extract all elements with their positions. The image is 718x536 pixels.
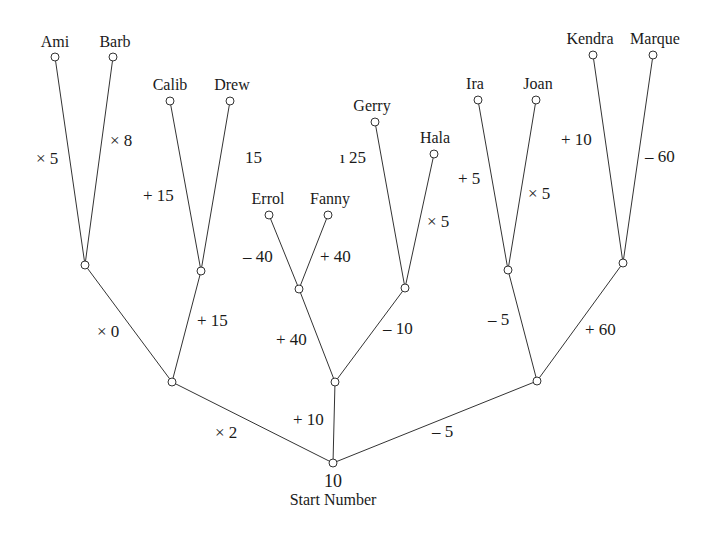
tree-node <box>324 211 332 219</box>
edge-operation-label: – 60 <box>645 148 675 165</box>
start-number-caption: Start Number <box>290 492 377 508</box>
tree-edge <box>478 100 508 270</box>
leaf-name-label: Ira <box>466 76 484 92</box>
tree-node <box>401 284 409 292</box>
edge-operation-label: + 40 <box>320 248 351 265</box>
tree-node <box>371 118 379 126</box>
edge-operation-label: × 2 <box>215 424 237 441</box>
leaf-name-label: Marque <box>630 31 680 47</box>
tree-node <box>533 377 541 385</box>
tree-edge <box>201 101 230 271</box>
tree-edge <box>333 382 335 463</box>
tree-node <box>331 378 339 386</box>
edge-operation-label: × 5 <box>427 213 449 230</box>
leaf-name-label: Hala <box>420 130 450 146</box>
edge-operation-label: ı 25 <box>340 149 366 166</box>
number-tree-diagram: × 2+ 10– 5× 0+ 15+ 40– 10– 5+ 60× 5× 8+ … <box>0 0 718 536</box>
leaf-name-label: Fanny <box>310 191 350 207</box>
edge-operation-label: – 5 <box>488 311 509 328</box>
tree-edge <box>85 57 113 265</box>
tree-node <box>532 96 540 104</box>
tree-node <box>589 51 597 59</box>
edge-operation-label: – 40 <box>243 248 273 265</box>
edge-operation-label: × 5 <box>528 185 550 202</box>
leaf-name-label: Drew <box>214 77 250 93</box>
edge-operation-label: 15 <box>245 149 262 166</box>
leaf-name-label: Calib <box>153 77 188 93</box>
leaf-name-label: Joan <box>523 76 552 92</box>
edge-operation-label: × 8 <box>110 132 132 149</box>
tree-node <box>265 211 273 219</box>
edge-operation-label: + 5 <box>458 170 480 187</box>
tree-node <box>295 285 303 293</box>
edge-operation-label: + 15 <box>197 312 228 329</box>
edge-operation-label: × 0 <box>97 323 119 340</box>
tree-node <box>619 259 627 267</box>
leaf-name-label: Kendra <box>566 31 613 47</box>
tree-node <box>168 378 176 386</box>
tree-node <box>474 96 482 104</box>
tree-node <box>197 267 205 275</box>
start-number-value: 10 <box>324 472 342 490</box>
edge-operation-label: + 10 <box>293 411 324 428</box>
edge-operation-label: × 5 <box>36 150 58 167</box>
tree-node <box>504 266 512 274</box>
tree-node <box>649 51 657 59</box>
edge-operation-label: + 40 <box>276 331 307 348</box>
tree-node <box>109 53 117 61</box>
tree-edge <box>269 215 299 289</box>
tree-node <box>51 53 59 61</box>
tree-node <box>81 261 89 269</box>
tree-node <box>166 97 174 105</box>
tree-edge <box>375 122 405 288</box>
leaf-name-label: Gerry <box>353 98 390 114</box>
tree-edge <box>508 270 537 381</box>
edge-operation-label: – 5 <box>432 423 453 440</box>
leaf-name-label: Ami <box>41 34 69 50</box>
leaf-name-label: Errol <box>252 191 285 207</box>
edge-operation-label: – 10 <box>383 320 413 337</box>
tree-edge <box>55 57 85 265</box>
tree-edge <box>593 55 623 263</box>
edge-operation-label: + 15 <box>143 187 174 204</box>
tree-node <box>329 459 337 467</box>
tree-node <box>430 150 438 158</box>
edge-operation-label: + 10 <box>561 131 592 148</box>
leaf-name-label: Barb <box>99 34 130 50</box>
edge-operation-label: + 60 <box>585 321 616 338</box>
tree-node <box>226 97 234 105</box>
tree-edge <box>170 101 201 271</box>
tree-edges <box>0 0 718 536</box>
